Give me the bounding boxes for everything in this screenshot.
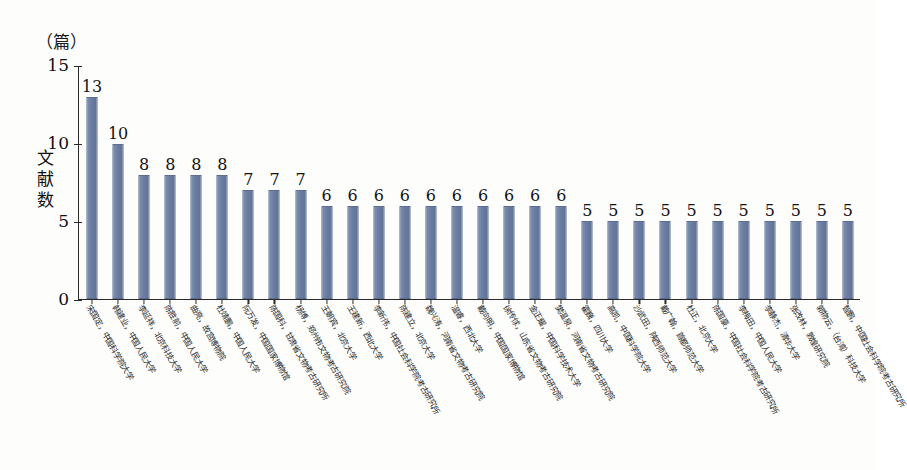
bar-value-label: 5 [582,202,592,219]
bar-value-label: 10 [108,125,128,142]
bar-slot: 6 [392,66,418,299]
bar-value-label: 8 [217,156,227,173]
bar-slot: 5 [705,66,731,299]
bar-value-label: 6 [530,187,540,204]
bar-slot: 5 [757,66,783,299]
bar-slot: 5 [835,66,861,299]
bar-slot: 6 [418,66,444,299]
bar[interactable] [87,97,98,299]
y-tick-label-0: 0 [58,289,69,309]
bar[interactable] [373,206,384,299]
bar[interactable] [425,206,436,299]
bar-slot: 8 [131,66,157,299]
bar[interactable] [451,206,462,299]
bar[interactable] [816,221,827,299]
plot-area: 051015 13108888777666666666655555555555 [78,66,860,300]
bar-slot: 6 [548,66,574,299]
bar[interactable] [243,190,254,299]
bar[interactable] [556,206,567,299]
y-tick-0: 0 [74,300,82,301]
bar[interactable] [530,206,541,299]
bar-slot: 5 [626,66,652,299]
bar-value-label: 5 [634,202,644,219]
bar-slot: 6 [444,66,470,299]
bar[interactable] [504,206,515,299]
bar[interactable] [139,175,150,299]
bar-slot: 7 [261,66,287,299]
bar[interactable] [608,221,619,299]
y-tick-label-15: 15 [47,55,69,75]
bar-value-label: 7 [295,171,305,188]
bar-value-label: 8 [165,156,175,173]
y-tick-label-5: 5 [58,211,69,231]
bar[interactable] [764,221,775,299]
bar-slot: 8 [183,66,209,299]
bar-slot: 10 [105,66,131,299]
bar-slot: 6 [340,66,366,299]
bar-slot: 5 [679,66,705,299]
bar[interactable] [842,221,853,299]
bar-slot: 7 [288,66,314,299]
bar[interactable] [165,175,176,299]
bar-slot: 5 [783,66,809,299]
bar-slot: 6 [522,66,548,299]
bar-slot: 13 [79,66,105,299]
bar-value-label: 6 [478,187,488,204]
bar-value-label: 7 [243,171,253,188]
bar[interactable] [634,221,645,299]
bar-value-label: 5 [817,202,827,219]
bar[interactable] [582,221,593,299]
y-axis-title: 文 献 数 [34,148,56,211]
bar[interactable] [712,221,723,299]
bar-value-label: 5 [686,202,696,219]
bar-slot: 7 [235,66,261,299]
bar-value-label: 6 [452,187,462,204]
bar[interactable] [478,206,489,299]
bar-slot: 6 [314,66,340,299]
bar-value-label: 13 [82,78,102,95]
bar-value-label: 8 [191,156,201,173]
bar[interactable] [321,206,332,299]
bar-slot: 6 [366,66,392,299]
bar[interactable] [191,175,202,299]
bar-value-label: 6 [348,187,358,204]
bar[interactable] [217,175,228,299]
bar-slot: 5 [600,66,626,299]
bar-value-label: 5 [739,202,749,219]
bar-value-label: 5 [791,202,801,219]
y-tick-label-10: 10 [47,133,69,153]
unit-label: （篇） [36,28,87,53]
bar-value-label: 6 [400,187,410,204]
bar-slot: 8 [157,66,183,299]
bar-slot: 5 [809,66,835,299]
bar-slot: 8 [209,66,235,299]
bar[interactable] [738,221,749,299]
bar-slot: 6 [496,66,522,299]
bar[interactable] [399,206,410,299]
bar-value-label: 8 [139,156,149,173]
bar-slot: 5 [574,66,600,299]
bar[interactable] [686,221,697,299]
bar[interactable] [660,221,671,299]
bar-value-label: 5 [843,202,853,219]
bar-slot: 5 [652,66,678,299]
bar-slot: 5 [731,66,757,299]
bar-value-label: 5 [660,202,670,219]
bar-value-label: 6 [426,187,436,204]
bar[interactable] [269,190,280,299]
bar[interactable] [790,221,801,299]
bar[interactable] [295,190,306,299]
y-axis-title-char-3: 数 [34,190,56,211]
bar[interactable] [113,144,124,299]
bar-series: 13108888777666666666655555555555 [79,66,860,299]
x-axis-label: 宋国定，中国科学院大学 [84,303,135,382]
bar-value-label: 6 [374,187,384,204]
bar-value-label: 7 [269,171,279,188]
bar-value-label: 5 [608,202,618,219]
x-axis-label: 阮万发，中国国家博物馆 [240,303,291,382]
bar[interactable] [347,206,358,299]
bar-value-label: 6 [556,187,566,204]
x-axis-label: 戴向明，中国国家博物馆 [475,303,526,382]
bar-value-label: 5 [765,202,775,219]
